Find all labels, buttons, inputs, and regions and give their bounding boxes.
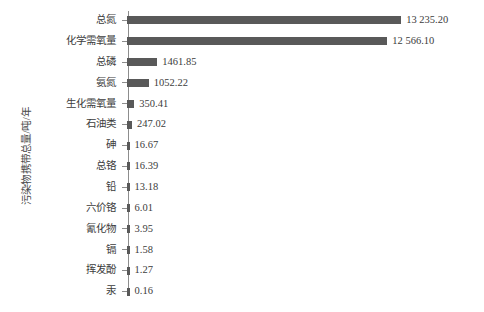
bar-zone: 0.16 <box>127 281 480 302</box>
bar-value-label: 6.01 <box>135 203 153 214</box>
bar-row: 镉1.58 <box>36 239 480 260</box>
bar-row: 氨氮1052.22 <box>36 73 480 94</box>
bar <box>127 58 157 66</box>
category-label: 六价铬 <box>36 203 122 214</box>
bar-row: 石油类247.02 <box>36 114 480 135</box>
category-label: 石油类 <box>36 119 122 130</box>
bar-row: 化学需氧量12 566.10 <box>36 31 480 52</box>
bar <box>127 288 130 296</box>
bar <box>127 100 134 108</box>
bar-row: 六价铬6.01 <box>36 198 480 219</box>
bar-chart: 污染物携带总量/吨/年 总氮13 235.20化学需氧量12 566.10总磷1… <box>0 0 484 312</box>
bar <box>127 121 132 129</box>
category-label: 氰化物 <box>36 224 122 235</box>
bar-value-label: 350.41 <box>139 99 168 110</box>
bar-zone: 247.02 <box>127 114 480 135</box>
bar-row: 总铬16.39 <box>36 156 480 177</box>
category-label: 汞 <box>36 286 122 297</box>
category-label: 铅 <box>36 182 122 193</box>
category-label: 氨氮 <box>36 78 122 89</box>
category-label: 总铬 <box>36 161 122 172</box>
bar-row: 生化需氧量350.41 <box>36 93 480 114</box>
bar-zone: 13.18 <box>127 177 480 198</box>
bar-zone: 13 235.20 <box>127 10 480 31</box>
bar <box>127 16 401 24</box>
bar-zone: 12 566.10 <box>127 31 480 52</box>
bar-value-label: 1461.85 <box>162 57 196 68</box>
bar <box>127 246 130 254</box>
bar <box>127 225 130 233</box>
bar-row: 汞0.16 <box>36 281 480 302</box>
category-label: 总氮 <box>36 15 122 26</box>
bar-row: 总磷1461.85 <box>36 52 480 73</box>
bar-value-label: 13.18 <box>135 182 159 193</box>
bar-zone: 1.58 <box>127 239 480 260</box>
bar-row: 挥发酚1.27 <box>36 260 480 281</box>
bar-value-label: 1.58 <box>135 245 153 256</box>
bar-zone: 1.27 <box>127 260 480 281</box>
bar <box>127 267 130 275</box>
bar-row: 氰化物3.95 <box>36 219 480 240</box>
plot-area: 总氮13 235.20化学需氧量12 566.10总磷1461.85氨氮1052… <box>36 10 480 302</box>
category-label: 镉 <box>36 245 122 256</box>
bar-zone: 16.67 <box>127 135 480 156</box>
bar-value-label: 13 235.20 <box>406 15 448 26</box>
bar-zone: 1461.85 <box>127 52 480 73</box>
bar-value-label: 247.02 <box>137 119 166 130</box>
bar <box>127 37 387 45</box>
bar-value-label: 0.16 <box>135 286 153 297</box>
bar-zone: 16.39 <box>127 156 480 177</box>
bar-value-label: 1052.22 <box>154 78 188 89</box>
y-axis-title-container: 污染物携带总量/吨/年 <box>14 0 36 312</box>
bar <box>127 142 130 150</box>
category-label: 生化需氧量 <box>36 99 122 110</box>
bar-zone: 350.41 <box>127 93 480 114</box>
bar <box>127 183 130 191</box>
bar <box>127 79 149 87</box>
category-label: 砷 <box>36 140 122 151</box>
bar-value-label: 1.27 <box>135 265 153 276</box>
bar <box>127 204 130 212</box>
bar-row: 砷16.67 <box>36 135 480 156</box>
bar-value-label: 16.67 <box>135 140 159 151</box>
bar-zone: 6.01 <box>127 198 480 219</box>
bar-zone: 1052.22 <box>127 72 480 93</box>
bar-value-label: 16.39 <box>135 161 159 172</box>
bar-value-label: 12 566.10 <box>392 36 434 47</box>
category-label: 化学需氧量 <box>36 36 122 47</box>
bar-rows: 总氮13 235.20化学需氧量12 566.10总磷1461.85氨氮1052… <box>36 10 480 302</box>
category-label: 总磷 <box>36 57 122 68</box>
bar-value-label: 3.95 <box>135 224 153 235</box>
bar-row: 总氮13 235.20 <box>36 10 480 31</box>
category-label: 挥发酚 <box>36 265 122 276</box>
bar-row: 铅13.18 <box>36 177 480 198</box>
bar <box>127 162 130 170</box>
y-axis-title: 污染物携带总量/吨/年 <box>18 107 33 205</box>
bar-zone: 3.95 <box>127 218 480 239</box>
